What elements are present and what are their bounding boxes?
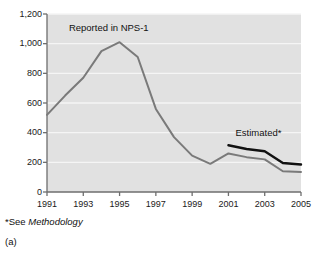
y-axis-tick-label: 200 [2,158,42,167]
y-axis-tick-label: 800 [2,69,42,78]
x-axis-tick-label: 2005 [284,200,318,209]
x-axis-tick-label: 1997 [139,200,173,209]
x-axis-tick-label: 1999 [175,200,209,209]
y-axis-tick-label: 400 [2,128,42,137]
methodology-footnote: *See Methodology [5,216,83,227]
methodology-footnote-term: Methodology [28,216,82,227]
y-axis-tick-label: 600 [2,99,42,108]
y-axis-tick-label: 1,000 [2,39,42,48]
x-axis-tick-label: 1995 [103,200,137,209]
x-axis-tick-label: 2001 [211,200,245,209]
x-axis-tick-label: 2003 [248,200,282,209]
methodology-footnote-prefix: *See [5,216,28,227]
estimated-series-label: Estimated* [235,127,281,138]
x-axis-tick-label: 1993 [66,200,100,209]
panel-label: (a) [5,236,17,247]
y-axis-tick-label: 0 [2,188,42,197]
y-axis-tick-label: 1,200 [2,10,42,19]
chart-figure: 02004006008001,0001,200 1991199319951997… [0,0,318,254]
reported-series-label: Reported in NPS-1 [69,22,149,33]
x-axis-tick-label: 1991 [30,200,64,209]
